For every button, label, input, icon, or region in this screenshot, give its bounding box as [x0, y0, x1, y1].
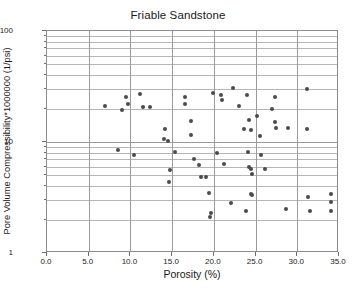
x-axis-tick-label: 25.0 [247, 257, 263, 266]
y-axis-tick [42, 30, 46, 31]
x-axis-tick [296, 252, 297, 256]
data-point [273, 120, 277, 124]
data-point [237, 104, 241, 108]
x-axis-tick-label: 10.0 [122, 257, 138, 266]
data-point [305, 87, 309, 91]
data-point [120, 108, 124, 112]
data-point [244, 209, 248, 213]
x-axis-tick-label: 30.0 [288, 257, 304, 266]
data-point [273, 95, 277, 99]
data-point [231, 86, 235, 90]
data-point [207, 191, 211, 195]
y-axis-tick [44, 219, 46, 220]
data-point [219, 93, 223, 97]
data-point [166, 139, 170, 143]
data-point [274, 126, 278, 130]
x-axis-tick-label: 15.0 [163, 257, 179, 266]
x-axis-tick [129, 252, 130, 256]
data-point [132, 153, 136, 157]
x-axis-tick [88, 252, 89, 256]
x-axis-tick-label: 35.0 [330, 257, 346, 266]
y-axis-tick [44, 41, 46, 42]
data-point [116, 148, 120, 152]
data-point [126, 102, 130, 106]
data-point [250, 172, 254, 176]
data-point [329, 200, 333, 204]
x-axis-tick [46, 252, 47, 256]
data-point [329, 209, 333, 213]
data-point [284, 207, 288, 211]
data-point [250, 193, 254, 197]
data-point [192, 157, 196, 161]
data-point [173, 150, 177, 154]
data-point [306, 195, 310, 199]
data-point [259, 153, 263, 157]
y-axis-tick-label: 1 [9, 248, 13, 257]
x-axis-tick-label: 5.0 [82, 257, 93, 266]
y-axis-tick [44, 166, 46, 167]
y-axis-tick [44, 146, 46, 147]
data-point [204, 175, 208, 179]
data-point [197, 163, 201, 167]
data-point [148, 105, 152, 109]
data-point [245, 93, 249, 97]
data-point [183, 95, 187, 99]
data-point [208, 215, 212, 219]
data-point [189, 119, 193, 123]
data-point [168, 168, 172, 172]
data-points-layer [47, 31, 337, 251]
y-axis-tick [44, 185, 46, 186]
data-point [249, 128, 253, 132]
x-axis-tick [255, 252, 256, 256]
y-axis-tick-label: 100 [0, 26, 13, 35]
y-axis-tick [44, 74, 46, 75]
data-point [258, 134, 262, 138]
chart-container: Friable Sandstone Pore Volume Compressib… [0, 0, 356, 291]
y-axis-tick [44, 55, 46, 56]
data-point [199, 175, 203, 179]
data-point [167, 180, 171, 184]
data-point [263, 167, 267, 171]
x-axis-tick-label: 0.0 [40, 257, 51, 266]
data-point [163, 127, 167, 131]
x-axis-title: Porosity (%) [46, 268, 338, 280]
data-point [270, 107, 274, 111]
data-point [229, 201, 233, 205]
data-point [215, 151, 219, 155]
data-point [220, 98, 224, 102]
y-axis-tick [44, 174, 46, 175]
data-point [124, 95, 128, 99]
chart-title: Friable Sandstone [0, 9, 356, 21]
data-point [286, 126, 290, 130]
data-point [141, 105, 145, 109]
y-axis-tick [44, 88, 46, 89]
y-axis-tick [44, 47, 46, 48]
y-axis-tick [44, 108, 46, 109]
data-point [103, 104, 107, 108]
data-point [255, 114, 259, 118]
data-point [242, 127, 246, 131]
y-axis-tick [44, 152, 46, 153]
y-axis-tick-label: 10 [4, 137, 13, 146]
x-axis-tick-label: 20.0 [205, 257, 221, 266]
data-point [138, 92, 142, 96]
data-point [305, 127, 309, 131]
x-axis-tick [338, 252, 339, 256]
y-axis-tick [44, 35, 46, 36]
data-point [247, 118, 251, 122]
data-point [246, 150, 250, 154]
y-axis-tick [44, 158, 46, 159]
data-point [211, 91, 215, 95]
data-point [308, 209, 312, 213]
data-point [249, 167, 253, 171]
data-point [329, 192, 333, 196]
data-point [183, 102, 187, 106]
y-axis-tick [44, 63, 46, 64]
data-point [189, 133, 193, 137]
y-axis-tick [44, 199, 46, 200]
data-point [222, 162, 226, 166]
y-axis-tick [42, 141, 46, 142]
x-axis-tick [213, 252, 214, 256]
x-axis-tick [171, 252, 172, 256]
plot-area [46, 30, 338, 252]
